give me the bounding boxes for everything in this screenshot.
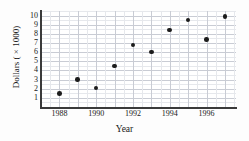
gridline-vertical xyxy=(133,11,134,107)
y-tick-label: 2 xyxy=(34,85,38,93)
x-axis-tick-labels: 19881990199219941996 xyxy=(0,109,249,123)
gridline-vertical xyxy=(151,11,152,107)
gridline-vertical xyxy=(170,11,171,107)
x-tick-label: 1996 xyxy=(199,109,215,118)
data-point xyxy=(75,77,80,82)
y-tick-label: 9 xyxy=(34,21,38,29)
y-axis-title: Dollars ( × 1000) xyxy=(11,9,21,105)
gridline-vertical xyxy=(142,11,143,107)
data-point xyxy=(112,64,117,69)
gridline-vertical xyxy=(69,11,70,107)
data-point xyxy=(57,91,62,96)
gridline-vertical xyxy=(234,11,235,107)
gridline-vertical xyxy=(188,11,189,107)
x-axis-title: Year xyxy=(0,124,249,135)
data-point xyxy=(149,50,154,55)
gridline-vertical xyxy=(87,11,88,107)
gridline-vertical xyxy=(179,11,180,107)
gridline-vertical xyxy=(124,11,125,107)
y-tick-label: 7 xyxy=(34,39,38,47)
grid-layer xyxy=(41,11,236,107)
data-point xyxy=(204,37,209,42)
x-tick-label: 1994 xyxy=(162,109,178,118)
scatter-chart-figure: 12345678910 19881990199219941996 Dollars… xyxy=(0,0,249,141)
y-tick-label: 4 xyxy=(34,66,38,74)
y-tick-label: 6 xyxy=(34,48,38,56)
x-tick-label: 1988 xyxy=(51,109,67,118)
gridline-vertical xyxy=(216,11,217,107)
x-tick-label: 1990 xyxy=(88,109,104,118)
y-tick-label: 10 xyxy=(30,12,38,20)
y-tick-label: 8 xyxy=(34,30,38,38)
gridline-vertical xyxy=(78,11,79,107)
plot-area xyxy=(41,11,236,107)
gridline-vertical xyxy=(207,11,208,107)
gridline-vertical xyxy=(225,11,226,107)
y-tick-label: 1 xyxy=(34,94,38,102)
gridline-vertical xyxy=(197,11,198,107)
gridline-vertical xyxy=(161,11,162,107)
y-axis-line xyxy=(40,10,42,109)
y-tick-label: 5 xyxy=(34,57,38,65)
y-tick-label: 3 xyxy=(34,76,38,84)
gridline-vertical xyxy=(105,11,106,107)
x-tick-label: 1992 xyxy=(125,109,141,118)
gridline-vertical xyxy=(115,11,116,107)
gridline-vertical xyxy=(96,11,97,107)
data-point xyxy=(223,14,228,19)
gridline-vertical xyxy=(50,11,51,107)
